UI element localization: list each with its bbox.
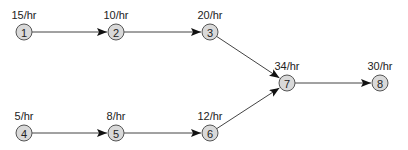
node-rate-label: 5/hr [15, 110, 34, 122]
node-rate-label: 20/hr [197, 9, 222, 21]
node-number: 7 [284, 78, 290, 90]
node-rate-label: 12/hr [197, 110, 222, 122]
node-number: 5 [113, 128, 119, 140]
node-number: 8 [377, 78, 383, 90]
node-1: 15/hr1 [11, 9, 36, 40]
diagram-svg: 15/hr110/hr220/hr35/hr48/hr512/hr634/hr7… [0, 0, 408, 150]
node-4: 5/hr4 [15, 110, 34, 141]
node-rate-label: 15/hr [11, 9, 36, 21]
node-rate-label: 30/hr [367, 60, 392, 72]
node-2: 10/hr2 [103, 9, 128, 40]
flow-diagram: 15/hr110/hr220/hr35/hr48/hr512/hr634/hr7… [0, 0, 408, 150]
edge-3-to-7 [217, 36, 280, 78]
node-6: 12/hr6 [197, 110, 222, 141]
nodes-layer: 15/hr110/hr220/hr35/hr48/hr512/hr634/hr7… [11, 9, 392, 141]
node-rate-label: 34/hr [274, 60, 299, 72]
node-7: 34/hr7 [274, 60, 299, 91]
node-3: 20/hr3 [197, 9, 222, 40]
node-number: 4 [21, 128, 27, 140]
node-rate-label: 10/hr [103, 9, 128, 21]
node-5: 8/hr5 [107, 110, 126, 141]
node-8: 30/hr8 [367, 60, 392, 91]
node-number: 2 [113, 27, 119, 39]
node-number: 3 [207, 27, 213, 39]
edge-6-to-7 [217, 88, 280, 129]
node-rate-label: 8/hr [107, 110, 126, 122]
node-number: 6 [207, 128, 213, 140]
node-number: 1 [21, 27, 27, 39]
